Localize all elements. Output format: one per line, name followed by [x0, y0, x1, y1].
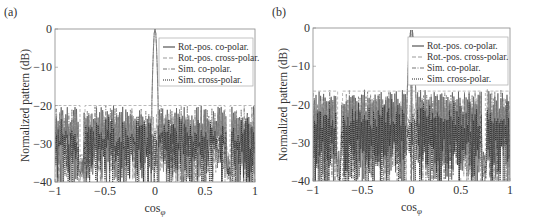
x-tick-label: 1	[507, 183, 513, 197]
panel-label: (a)	[4, 5, 17, 19]
y-tick-label: −20	[291, 98, 310, 112]
legend-entry: Rot.-pos. co-polar.	[178, 42, 249, 52]
legend-entry: Rot.-pos. cross-polar.	[178, 53, 259, 63]
legend-entry: Sim. cross-polar.	[427, 74, 491, 84]
y-tick-label: −40	[33, 175, 52, 189]
x-axis-label: cosφ	[401, 200, 422, 216]
y-tick-label: 0	[46, 22, 52, 36]
legend: Rot.-pos. co-polar.Rot.-pos. cross-polar…	[408, 37, 508, 85]
plot-area: −1−0.500.510−10−20−30−40cosφNormalized p…	[19, 22, 259, 217]
y-axis-label: Normalized pattern (dB)	[277, 48, 290, 161]
chart-b: −1−0.500.510−10−20−30−40cosφNormalized p…	[268, 0, 538, 222]
chart-panel-a: −1−0.500.510−10−20−30−40cosφNormalized p…	[0, 0, 268, 222]
y-axis-label: Normalized pattern (dB)	[19, 49, 32, 162]
y-tick-label: −30	[33, 137, 52, 151]
y-tick-label: −10	[291, 59, 310, 73]
legend-entry: Sim. co-polar.	[178, 64, 232, 74]
x-tick-label: −0.5	[351, 183, 373, 197]
y-tick-label: 0	[304, 21, 310, 35]
x-tick-label: 0.5	[453, 183, 468, 197]
x-tick-label: 0.5	[198, 184, 213, 198]
chart-a: −1−0.500.510−10−20−30−40cosφNormalized p…	[0, 0, 268, 222]
legend-entry: Rot.-pos. co-polar.	[427, 41, 498, 51]
x-axis-label: cosφ	[145, 201, 166, 217]
legend-entry: Sim. cross-polar.	[178, 75, 242, 85]
x-tick-label: 0	[152, 184, 158, 198]
legend-entry: Sim. co-polar.	[427, 63, 481, 73]
y-tick-label: −30	[291, 136, 310, 150]
plot-area: −1−0.500.510−10−20−30−40cosφNormalized p…	[277, 21, 513, 216]
panel-label: (b)	[272, 5, 286, 19]
x-tick-label: 1	[252, 184, 258, 198]
y-tick-label: −20	[33, 99, 52, 113]
x-tick-label: −0.5	[94, 184, 116, 198]
y-tick-label: −40	[291, 174, 310, 188]
legend-entry: Rot.-pos. cross-polar.	[427, 52, 508, 62]
chart-panel-b: −1−0.500.510−10−20−30−40cosφNormalized p…	[268, 0, 538, 222]
x-tick-label: 0	[409, 183, 415, 197]
y-tick-label: −10	[33, 60, 52, 74]
legend: Rot.-pos. co-polar.Rot.-pos. cross-polar…	[159, 38, 259, 86]
